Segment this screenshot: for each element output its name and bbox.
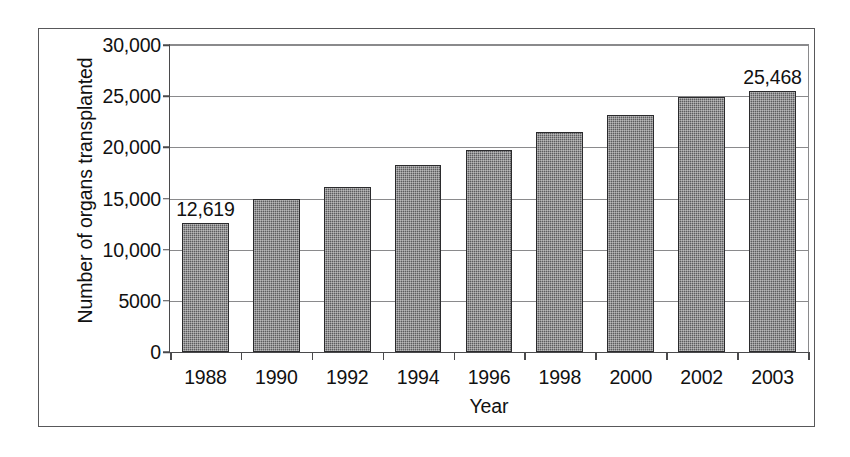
x-tick-label-1994: 1994 (397, 366, 440, 389)
gridline (170, 45, 808, 46)
bar-value-label-2003: 25,468 (743, 66, 801, 89)
bar-1994 (395, 165, 442, 352)
bar-2003 (749, 91, 796, 352)
y-tick-label: 15,000 (103, 187, 161, 210)
x-tick-label-1990: 1990 (255, 366, 298, 389)
bar-1998 (536, 132, 583, 352)
x-tick-label-1998: 1998 (539, 366, 582, 389)
x-tick-mark (666, 352, 668, 360)
bar-1988 (182, 223, 229, 352)
y-tick-label: 5000 (118, 289, 161, 312)
y-tick-label: 20,000 (103, 136, 161, 159)
y-tick-label: 25,000 (103, 85, 161, 108)
x-tick-mark (312, 352, 314, 360)
y-tick-label: 0 (150, 341, 161, 364)
plot-area: 0500010,00015,00020,00025,00030,00019881… (169, 44, 809, 353)
y-tick-label: 30,000 (103, 34, 161, 57)
x-tick-mark (383, 352, 385, 360)
chart-figure: Number of organs transplanted 0500010,00… (38, 28, 815, 427)
bar-1996 (466, 150, 513, 352)
y-axis-title: Number of organs transplanted (74, 41, 97, 341)
x-tick-label-2003: 2003 (751, 366, 794, 389)
bar-2000 (607, 115, 654, 352)
y-tick-mark (163, 95, 170, 97)
x-axis-title: Year (169, 395, 809, 418)
x-tick-label-1996: 1996 (468, 366, 511, 389)
x-tick-label-1988: 1988 (184, 366, 227, 389)
x-tick-mark (241, 352, 243, 360)
y-tick-mark (163, 44, 170, 46)
x-tick-mark (808, 352, 810, 360)
x-tick-mark (595, 352, 597, 360)
y-tick-label: 10,000 (103, 238, 161, 261)
y-tick-mark (163, 351, 170, 353)
x-tick-label-1992: 1992 (326, 366, 369, 389)
y-tick-mark (163, 300, 170, 302)
x-tick-mark (737, 352, 739, 360)
y-tick-mark (163, 198, 170, 200)
x-tick-mark (170, 352, 172, 360)
x-tick-mark (524, 352, 526, 360)
bar-1992 (324, 187, 371, 352)
x-tick-label-2000: 2000 (609, 366, 652, 389)
y-tick-mark (163, 249, 170, 251)
bar-1990 (253, 199, 300, 353)
bar-value-label-1988: 12,619 (176, 198, 234, 221)
x-tick-label-2002: 2002 (680, 366, 723, 389)
y-tick-mark (163, 147, 170, 149)
bar-2002 (678, 97, 725, 352)
x-tick-mark (454, 352, 456, 360)
